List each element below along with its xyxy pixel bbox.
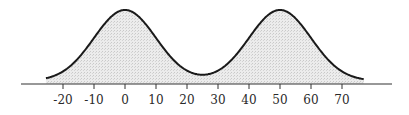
x-axis-ticks: -20-10010203040506070 (53, 84, 349, 107)
x-tick-label: 0 (121, 93, 129, 107)
x-tick-label: 10 (148, 93, 163, 107)
x-tick-label: -20 (53, 93, 72, 107)
x-tick-label: -10 (84, 93, 103, 107)
x-tick-label: 20 (179, 93, 194, 107)
x-tick-label: 30 (210, 93, 225, 107)
density-chart: -20-10010203040506070 (0, 0, 409, 115)
density-area-fill (46, 10, 364, 84)
x-tick-label: 60 (303, 93, 318, 107)
x-tick-label: 70 (334, 93, 349, 107)
x-tick-label: 50 (272, 93, 287, 107)
x-tick-label: 40 (241, 93, 256, 107)
